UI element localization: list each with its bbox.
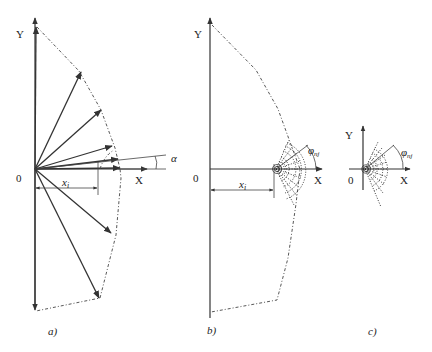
panel-c: Y 0 X φnj c) bbox=[345, 126, 413, 338]
x-axis-label: X bbox=[400, 174, 408, 186]
caption-c: c) bbox=[368, 325, 377, 338]
angle-alpha-label: α bbox=[171, 152, 177, 164]
angle-phi-label: φnj bbox=[401, 146, 413, 160]
x-axis-label: X bbox=[314, 174, 322, 186]
force-vectors bbox=[35, 27, 120, 298]
panel-b: Y 0 X φnj xi b) bbox=[193, 18, 322, 337]
origin-label: 0 bbox=[16, 172, 22, 184]
dotted-fan-pattern bbox=[273, 140, 306, 205]
panel-a: Y 0 X α xi a) bbox=[16, 18, 177, 338]
caption-b: b) bbox=[207, 324, 217, 337]
origin-label: 0 bbox=[348, 174, 354, 186]
xi-label: xi bbox=[61, 176, 69, 190]
angle-phi-label: φnj bbox=[308, 144, 320, 158]
origin-label: 0 bbox=[193, 172, 199, 184]
y-axis-label: Y bbox=[345, 129, 353, 141]
xi-label: xi bbox=[238, 178, 246, 192]
phi-ray bbox=[365, 145, 394, 169]
y-axis-label: Y bbox=[16, 28, 24, 40]
alpha-arc bbox=[155, 156, 157, 169]
caption-a: a) bbox=[48, 325, 58, 338]
y-axis-label: Y bbox=[194, 28, 202, 40]
x-axis-label: X bbox=[135, 174, 143, 186]
diagram-canvas: Y 0 X α xi a) bbox=[0, 0, 432, 352]
dotted-fan-pattern bbox=[362, 142, 388, 207]
